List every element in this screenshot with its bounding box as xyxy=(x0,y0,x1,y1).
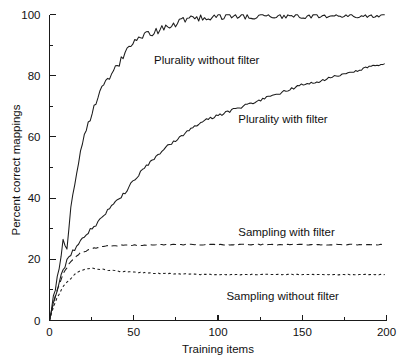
x-tick-label: 100 xyxy=(208,326,227,338)
series-label-sampling-without-filter: Sampling without filter xyxy=(226,290,339,302)
x-axis: 050100150200 Training items xyxy=(46,315,396,356)
series-annotations: Plurality without filterPlurality with f… xyxy=(154,54,339,302)
series-label-sampling-with-filter: Sampling with filter xyxy=(238,226,335,238)
line-chart: 020406080100 Percent correct mappings 05… xyxy=(0,0,404,360)
y-tick-label: 0 xyxy=(34,315,40,327)
y-tick-label: 20 xyxy=(28,253,41,265)
x-axis-tick-labels: 050100150200 xyxy=(46,326,396,338)
y-tick-label: 100 xyxy=(21,9,40,21)
y-axis-tick-labels: 020406080100 xyxy=(21,9,40,327)
series-curve-sampling-with-filter xyxy=(50,244,385,320)
x-tick-label: 200 xyxy=(377,326,396,338)
y-tick-label: 40 xyxy=(28,192,41,204)
y-axis-title: Percent correct mappings xyxy=(10,104,22,235)
x-tick-label: 0 xyxy=(46,326,52,338)
x-tick-label: 150 xyxy=(293,326,312,338)
series-curve-plurality-with-filter xyxy=(50,64,385,321)
x-tick-label: 50 xyxy=(127,326,140,338)
series-label-plurality-without-filter: Plurality without filter xyxy=(154,54,260,66)
x-axis-title: Training items xyxy=(182,343,254,355)
y-axis: 020406080100 Percent correct mappings xyxy=(10,9,56,327)
chart-figure: 020406080100 Percent correct mappings 05… xyxy=(0,0,404,360)
series-label-plurality-with-filter: Plurality with filter xyxy=(238,113,328,125)
x-axis-major-ticks xyxy=(50,315,387,321)
y-tick-label: 60 xyxy=(28,131,41,143)
y-tick-label: 80 xyxy=(28,70,41,82)
